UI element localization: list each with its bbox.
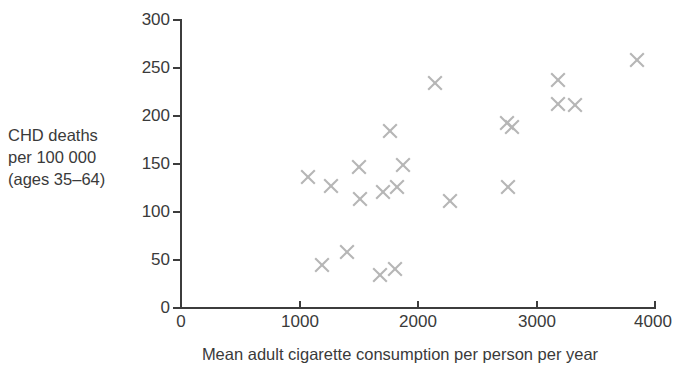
data-point-marker (388, 178, 406, 196)
x-tick-label-4000: 4000 (613, 312, 681, 332)
y-axis-title: CHD deaths per 100 000 (ages 35–64) (8, 124, 140, 190)
data-point-marker (441, 192, 459, 210)
x-axis-title: Mean adult cigarette consumption per per… (140, 345, 660, 364)
data-point-marker (628, 51, 646, 69)
data-point-marker (503, 118, 521, 136)
y-tick-label-100: 100 (108, 202, 170, 222)
data-point-marker (566, 96, 584, 114)
data-point-marker (350, 158, 368, 176)
y-tick-label-250: 250 (108, 58, 170, 78)
x-tick-3000 (536, 301, 538, 309)
x-tick-2000 (417, 301, 419, 309)
data-point-marker (371, 266, 389, 284)
x-tick-label-3000: 3000 (497, 312, 577, 332)
y-axis-title-line-1: CHD deaths (8, 124, 140, 146)
data-point-marker (338, 243, 356, 261)
y-tick-50 (173, 259, 181, 261)
x-tick-label-2000: 2000 (378, 312, 458, 332)
y-tick-label-200: 200 (108, 106, 170, 126)
data-point-marker (381, 122, 399, 140)
data-point-marker (313, 256, 331, 274)
x-tick-1000 (299, 301, 301, 309)
data-point-marker (426, 74, 444, 92)
data-point-marker (394, 156, 412, 174)
data-point-marker (499, 178, 517, 196)
x-tick-label-1000: 1000 (260, 312, 340, 332)
scatter-plot-figure: 300 250 200 150 100 50 0 0 1000 2000 300… (0, 0, 681, 384)
data-point-marker (549, 95, 567, 113)
y-tick-100 (173, 211, 181, 213)
data-point-marker (322, 177, 340, 195)
data-point-marker (299, 168, 317, 186)
data-point-marker (351, 190, 369, 208)
y-axis-title-line-2: per 100 000 (8, 146, 140, 168)
plot-area (0, 0, 681, 384)
data-point-marker (498, 114, 516, 132)
y-tick-label-50: 50 (108, 250, 170, 270)
y-tick-200 (173, 115, 181, 117)
y-tick-250 (173, 67, 181, 69)
data-point-marker (549, 71, 567, 89)
y-axis-title-line-3: (ages 35–64) (8, 168, 140, 190)
x-tick-4000 (654, 301, 656, 309)
x-tick-0 (180, 301, 182, 309)
y-tick-150 (173, 163, 181, 165)
data-point-marker (374, 183, 392, 201)
y-tick-label-300: 300 (108, 10, 170, 30)
data-point-marker (386, 260, 404, 278)
y-tick-300 (173, 19, 181, 21)
x-tick-label-0: 0 (141, 312, 221, 332)
